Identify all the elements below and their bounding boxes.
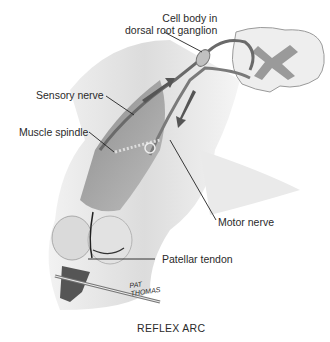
diagram-title: REFLEX ARC	[137, 322, 205, 334]
reflex-arc-illustration	[0, 0, 330, 342]
label-patellar-tendon: Patellar tendon	[162, 253, 233, 265]
spinal-cord	[232, 27, 324, 92]
label-muscle-spindle: Muscle spindle	[19, 126, 88, 138]
label-motor-nerve: Motor nerve	[218, 216, 274, 228]
label-sensory-nerve: Sensory nerve	[36, 89, 104, 101]
label-cell-body: Cell body in dorsal root ganglion	[125, 12, 217, 36]
